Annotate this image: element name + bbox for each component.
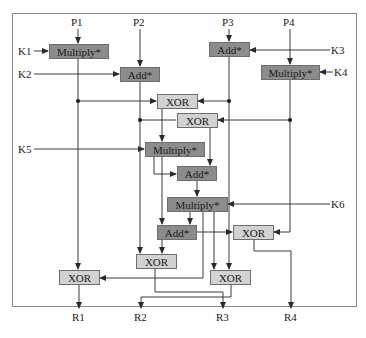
input-p1-label: P1 (71, 16, 83, 28)
multiply-node-1: Multiply* (49, 44, 109, 59)
key-k5-label: K5 (18, 143, 31, 155)
key-k3-label: K3 (331, 44, 344, 56)
add-node-1: Add* (120, 67, 160, 82)
key-k6-label: K6 (331, 198, 344, 210)
output-r2-label: R2 (134, 311, 147, 323)
key-k4-label: K4 (334, 66, 347, 78)
xor-node-2: XOR (177, 113, 218, 128)
multiply-node-4: Multiply* (167, 197, 228, 212)
add-node-2: Add* (209, 42, 250, 57)
input-p4-label: P4 (283, 16, 295, 28)
output-r4-label: R4 (284, 311, 297, 323)
xor-node-4: XOR (136, 254, 177, 269)
output-r1-label: R1 (72, 311, 85, 323)
input-p2-label: P2 (133, 16, 145, 28)
input-p3-label: P3 (222, 16, 234, 28)
add-node-3: Add* (177, 166, 217, 181)
xor-node-3: XOR (233, 225, 274, 240)
key-k1-label: K1 (18, 45, 31, 57)
multiply-node-3: Multiply* (145, 142, 205, 157)
key-k2-label: K2 (18, 68, 31, 80)
xor-node-5: XOR (59, 270, 100, 285)
output-r3-label: R3 (216, 311, 229, 323)
multiply-node-2: Multiply* (261, 65, 320, 80)
xor-node-1: XOR (157, 94, 198, 109)
add-node-4: Add* (157, 225, 197, 240)
xor-node-6: XOR (210, 270, 251, 285)
